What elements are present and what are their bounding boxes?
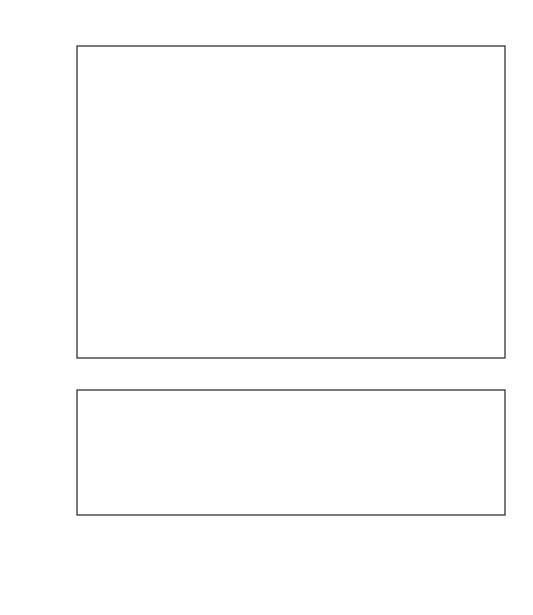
bottom-panel bbox=[0, 0, 505, 515]
bottom-panel-frame bbox=[77, 390, 505, 515]
top-panel-frame bbox=[77, 46, 505, 358]
figure bbox=[0, 0, 533, 615]
top-panel bbox=[50, 46, 505, 358]
